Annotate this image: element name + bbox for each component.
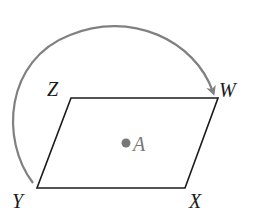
diagram-canvas: A Z W X Y [0, 0, 257, 220]
point-a-dot [122, 139, 131, 148]
rotation-arrow [13, 26, 213, 183]
label-a: A [131, 133, 146, 155]
label-z: Z [47, 78, 59, 100]
parallelogram-diagram: A Z W X Y [0, 0, 257, 220]
label-w: W [219, 79, 238, 101]
label-y: Y [12, 190, 25, 212]
label-x: X [188, 190, 202, 212]
